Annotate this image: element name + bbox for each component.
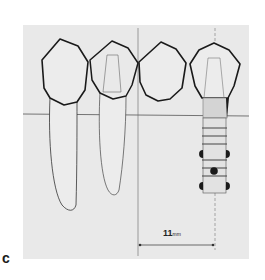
tooth-implant-diagram [0,0,265,280]
panel-label: c [2,250,10,266]
tooth-1-root [50,98,78,210]
implant-collar [203,98,227,118]
tooth-1-crown [42,39,88,105]
dimension-arrow-right [212,244,215,247]
implant-body [203,118,226,193]
implant-crown [190,43,240,98]
tooth-2-root [99,92,126,195]
tooth-2-post [103,55,121,92]
measurement-value: 11 [163,228,173,238]
measurement-unit: mm [173,231,181,237]
dimension-arrow-left [139,244,142,247]
tooth-2-crown [90,41,138,99]
pontic-crown [139,42,186,101]
measurement-label: 11mm [163,228,181,238]
